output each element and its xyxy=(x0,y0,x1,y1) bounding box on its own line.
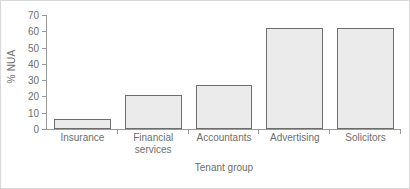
y-axis-tick-label: 20 xyxy=(28,91,39,102)
bar-chart-figure: % NUA 010203040506070 InsuranceFinancial… xyxy=(0,0,410,189)
y-axis-tick-label: 30 xyxy=(28,75,39,86)
y-axis-tick-labels: 010203040506070 xyxy=(19,10,41,129)
y-axis-title-text: % NUA xyxy=(7,49,18,83)
x-axis-line xyxy=(46,129,401,130)
y-axis-tick-label: 40 xyxy=(28,58,39,69)
x-axis-category-label-line: Solicitors xyxy=(330,132,401,144)
x-axis-category-label: Accountants xyxy=(189,132,260,144)
plot-area xyxy=(46,15,401,129)
y-axis-tick-mark xyxy=(42,96,46,97)
x-axis-category-label-line: Financial xyxy=(118,132,189,144)
x-axis-category-label-line: services xyxy=(118,144,189,156)
y-axis-tick-mark xyxy=(42,31,46,32)
bar-series xyxy=(47,15,401,129)
bar xyxy=(266,28,323,129)
y-axis-tick-mark xyxy=(42,129,46,130)
x-axis-tick-labels: InsuranceFinancialservicesAccountantsAdv… xyxy=(47,132,401,162)
y-axis-tick-label: 0 xyxy=(33,124,39,135)
x-axis-title: Tenant group xyxy=(47,162,401,173)
y-axis-tick-mark xyxy=(42,113,46,114)
y-axis-tick-label: 50 xyxy=(28,42,39,53)
x-axis-category-label: Financialservices xyxy=(118,132,189,156)
x-axis-category-label: Insurance xyxy=(47,132,118,144)
y-axis-tick-label: 10 xyxy=(28,107,39,118)
bar xyxy=(196,85,253,129)
bar xyxy=(125,95,182,129)
bar xyxy=(54,119,111,129)
x-axis-category-label-line: Accountants xyxy=(189,132,260,144)
y-axis-tick-mark xyxy=(42,80,46,81)
x-axis-category-label: Solicitors xyxy=(330,132,401,144)
y-axis-tick-mark xyxy=(42,48,46,49)
bar xyxy=(337,28,394,129)
y-axis-tick-mark xyxy=(42,64,46,65)
x-axis-category-label-line: Advertising xyxy=(259,132,330,144)
x-axis-category-label: Advertising xyxy=(259,132,330,144)
y-axis-tick-label: 60 xyxy=(28,26,39,37)
y-axis-tick-mark xyxy=(42,15,46,16)
y-axis-tick-label: 70 xyxy=(28,10,39,21)
x-axis-category-label-line: Insurance xyxy=(47,132,118,144)
